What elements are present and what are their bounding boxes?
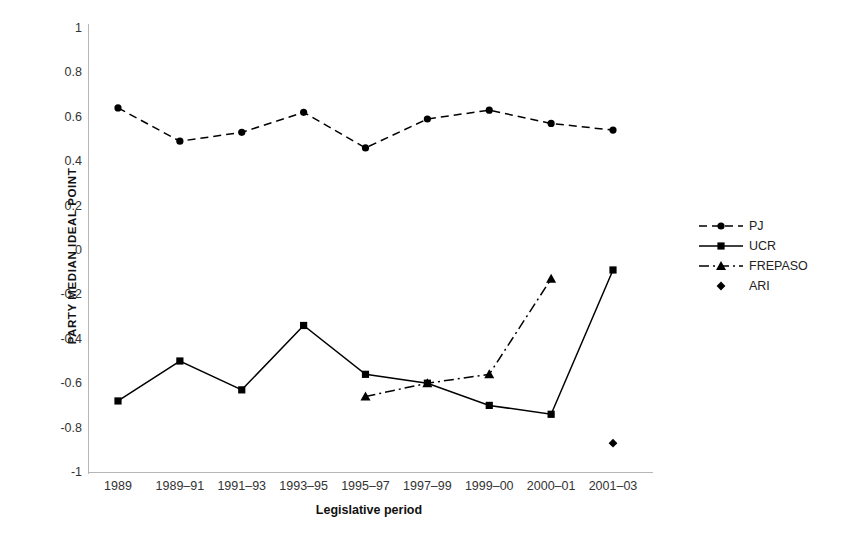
legend-item-pj[interactable]: PJ <box>697 216 837 236</box>
y-tick-label: -1 <box>42 465 82 479</box>
x-axis-line <box>88 472 653 473</box>
legend-key-icon <box>697 217 745 235</box>
y-tick-label: -0.6 <box>42 376 82 390</box>
data-point-marker <box>238 386 245 393</box>
y-tick-label: 0.6 <box>42 110 82 124</box>
data-point-marker <box>609 266 616 273</box>
legend-item-frepaso[interactable]: FREPASO <box>697 256 837 276</box>
data-point-marker <box>176 138 183 145</box>
data-point-marker <box>362 371 369 378</box>
legend-key-icon <box>697 237 745 255</box>
legend-key-icon <box>697 257 745 275</box>
data-point-marker <box>362 144 369 151</box>
data-point-marker <box>717 242 724 249</box>
chart-legend: PJUCRFREPASOARI <box>697 216 837 296</box>
legend-item-ari[interactable]: ARI <box>697 276 837 296</box>
y-tick-label: 0 <box>42 243 82 257</box>
data-point-marker <box>176 357 183 364</box>
data-point-marker <box>609 439 618 448</box>
data-point-marker <box>548 411 555 418</box>
series-layer <box>88 28 650 472</box>
x-tick-label: 2001–03 <box>568 479 658 493</box>
chart-figure: PARTY MEDIAN IDEAL POINT 10.80.60.40.20-… <box>0 0 851 538</box>
data-point-marker <box>238 129 245 136</box>
data-point-marker <box>548 120 555 127</box>
data-point-marker <box>114 104 121 111</box>
data-point-marker <box>424 115 431 122</box>
y-tick-label: 0.2 <box>42 199 82 213</box>
data-point-marker <box>300 109 307 116</box>
series-ari <box>609 439 618 448</box>
data-point-marker <box>486 107 493 114</box>
data-point-marker <box>609 127 616 134</box>
series-frepaso <box>361 274 557 401</box>
y-tick-label: -0.2 <box>42 287 82 301</box>
legend-label: ARI <box>745 279 770 293</box>
legend-label: PJ <box>745 219 764 233</box>
data-point-marker <box>114 397 121 404</box>
x-axis-tick-labels: 19891989–911991–931993–951995–971997–991… <box>88 479 650 499</box>
y-tick-label: -0.4 <box>42 332 82 346</box>
y-tick-label: 0.8 <box>42 65 82 79</box>
data-point-marker <box>717 222 724 229</box>
data-point-marker <box>486 402 493 409</box>
y-tick-label: 0.4 <box>42 154 82 168</box>
data-point-marker <box>484 369 494 378</box>
legend-key-icon <box>697 277 745 295</box>
data-point-marker <box>546 274 556 283</box>
y-axis-tick-labels: 10.80.60.40.20-0.2-0.4-0.6-0.8-1 <box>38 0 82 538</box>
y-tick-label: -0.8 <box>42 421 82 435</box>
legend-label: FREPASO <box>745 259 808 273</box>
plot-area <box>88 28 650 472</box>
legend-item-ucr[interactable]: UCR <box>697 236 837 256</box>
data-point-marker <box>300 322 307 329</box>
y-tick-label: 1 <box>42 21 82 35</box>
x-axis-title: Legislative period <box>88 503 650 517</box>
legend-label: UCR <box>745 239 776 253</box>
series-line <box>118 108 613 148</box>
series-pj <box>114 104 616 151</box>
data-point-marker <box>717 282 726 291</box>
